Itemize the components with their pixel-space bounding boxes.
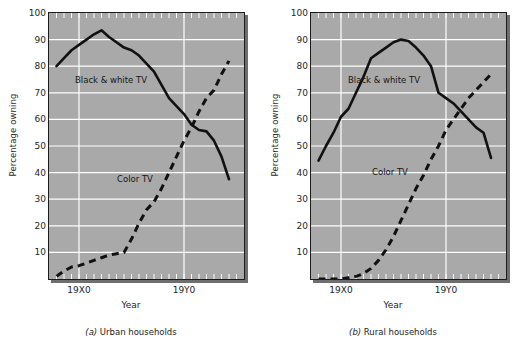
figure-root: Percentage owning 102030405060708090100 … bbox=[0, 0, 524, 348]
x-tick-label: 19Y0 bbox=[173, 285, 196, 295]
y-tick-label: 10 bbox=[282, 248, 308, 257]
x-axis-title-a: Year bbox=[0, 300, 262, 310]
series-label-color-tv-a: Color TV bbox=[117, 174, 153, 184]
caption-b: (b) Rural households bbox=[262, 327, 524, 337]
y-tick-label: 80 bbox=[282, 62, 308, 71]
caption-text-a: Urban households bbox=[100, 327, 177, 337]
y-tick-label: 20 bbox=[282, 221, 308, 230]
y-tick-label: 30 bbox=[20, 195, 46, 204]
y-tick-label: 40 bbox=[20, 168, 46, 177]
plot-area-b bbox=[310, 12, 507, 280]
panel-rural-households: Percentage owning 102030405060708090100 … bbox=[262, 0, 524, 348]
y-tick-label: 100 bbox=[20, 9, 46, 18]
x-tick-label: 19Y0 bbox=[435, 285, 458, 295]
plot-area-wrapper-b: Black & white TV Color TV bbox=[310, 12, 507, 280]
y-tick-label: 80 bbox=[20, 62, 46, 71]
series-label-black-white-tv-a: Black & white TV bbox=[75, 75, 147, 85]
y-tick-label: 90 bbox=[282, 35, 308, 44]
y-axis-ticks-a: 102030405060708090100 bbox=[14, 0, 46, 348]
x-tick-label: 19X0 bbox=[67, 285, 90, 295]
y-tick-label: 30 bbox=[282, 195, 308, 204]
caption-text-b: Rural households bbox=[364, 327, 437, 337]
chart-svg-a bbox=[49, 13, 244, 279]
y-tick-label: 50 bbox=[20, 142, 46, 151]
series-label-black-white-tv-b: Black & white TV bbox=[348, 75, 420, 85]
series-label-color-tv-b: Color TV bbox=[372, 167, 408, 177]
y-tick-label: 40 bbox=[282, 168, 308, 177]
y-tick-label: 60 bbox=[282, 115, 308, 124]
plot-area-a bbox=[48, 12, 245, 280]
panel-urban-households: Percentage owning 102030405060708090100 … bbox=[0, 0, 262, 348]
y-tick-label: 100 bbox=[282, 9, 308, 18]
y-tick-label: 10 bbox=[20, 248, 46, 257]
y-tick-label: 70 bbox=[20, 88, 46, 97]
series-line-black-white-tv bbox=[319, 40, 492, 161]
x-axis-title-b: Year bbox=[262, 300, 524, 310]
caption-a: (a) Urban households bbox=[0, 327, 262, 337]
y-tick-label: 90 bbox=[20, 35, 46, 44]
caption-key-b: (b) bbox=[349, 327, 361, 337]
plot-area-wrapper-a: Black & white TV Color TV bbox=[48, 12, 245, 280]
y-tick-label: 20 bbox=[20, 221, 46, 230]
y-axis-ticks-b: 102030405060708090100 bbox=[276, 0, 308, 348]
caption-key-a: (a) bbox=[85, 327, 97, 337]
y-tick-label: 70 bbox=[282, 88, 308, 97]
x-tick-label: 19X0 bbox=[329, 285, 352, 295]
y-tick-label: 50 bbox=[282, 142, 308, 151]
y-tick-label: 60 bbox=[20, 115, 46, 124]
chart-svg-b bbox=[311, 13, 506, 279]
